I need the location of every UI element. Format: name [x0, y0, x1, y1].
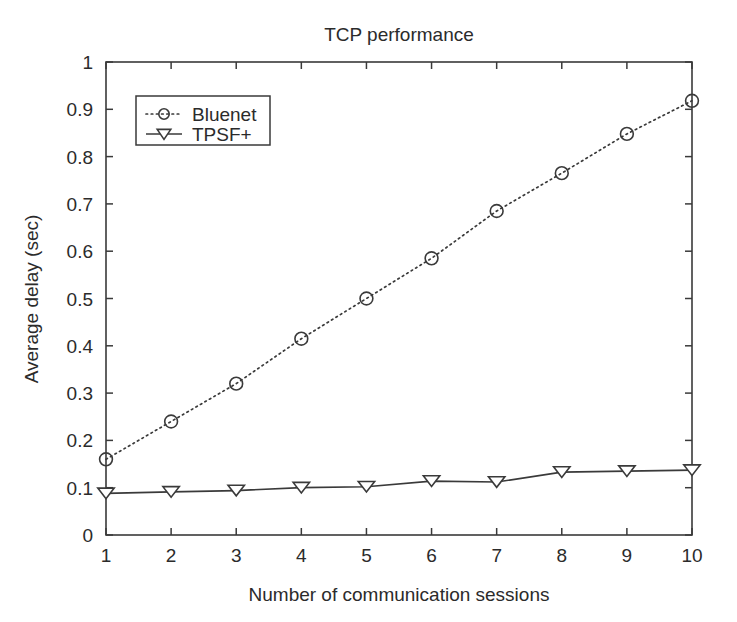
y-tick-label: 0.7 — [67, 194, 93, 215]
x-tick-label: 5 — [361, 545, 372, 566]
data-point-bluenet-2 — [165, 415, 178, 428]
y-tick-label: 0.3 — [67, 383, 93, 404]
tcp-performance-chart: TCP performance Average delay (sec) Numb… — [0, 0, 737, 622]
chart-title: TCP performance — [324, 24, 474, 45]
series-markers — [98, 94, 700, 498]
x-tick-label: 6 — [426, 545, 437, 566]
chart-legend[interactable]: Bluenet TPSF+ — [136, 96, 270, 145]
x-tick-label: 8 — [556, 545, 567, 566]
series-line-bluenet — [106, 101, 692, 460]
x-tick-label: 9 — [622, 545, 633, 566]
data-point-bluenet-8 — [555, 167, 568, 180]
x-tick-label: 10 — [681, 545, 702, 566]
x-tick-label: 1 — [101, 545, 112, 566]
x-tick-label: 4 — [296, 545, 307, 566]
x-tick-label: 2 — [166, 545, 177, 566]
y-tick-label: 0.9 — [67, 99, 93, 120]
y-tick-label: 0.8 — [67, 147, 93, 168]
x-tick-label: 3 — [231, 545, 242, 566]
x-tick-label: 7 — [491, 545, 502, 566]
series-line-tpsf- — [106, 470, 692, 493]
x-axis-label: Number of communication sessions — [249, 584, 550, 605]
chart-figure: TCP performance Average delay (sec) Numb… — [0, 0, 737, 622]
legend-label-bluenet: Bluenet — [192, 104, 257, 125]
y-tick-label: 0.4 — [67, 336, 94, 357]
y-tick-label: 0.6 — [67, 241, 93, 262]
y-tick-label: 0.5 — [67, 289, 93, 310]
y-tick-label: 0 — [82, 525, 93, 546]
y-tick-label: 0.2 — [67, 430, 93, 451]
data-point-bluenet-6 — [425, 252, 438, 265]
y-axis-label: Average delay (sec) — [21, 215, 42, 384]
series-lines — [106, 101, 692, 494]
y-tick-label: 0.1 — [67, 478, 93, 499]
legend-label-tpsf: TPSF+ — [192, 124, 252, 145]
y-tick-label: 1 — [82, 52, 93, 73]
